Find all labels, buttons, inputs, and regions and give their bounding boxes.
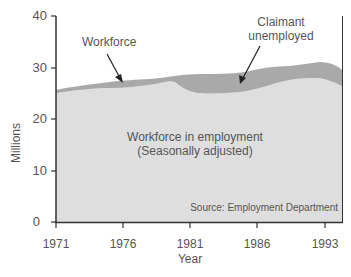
x-tick-label: 1986 — [244, 237, 271, 251]
workforce-arrow — [107, 54, 120, 78]
y-tick-label: 10 — [33, 163, 47, 178]
y-tick-label: 20 — [33, 111, 47, 126]
claimant-label-line1: Claimant — [257, 15, 305, 29]
employment-label-line2: (Seasonally adjusted) — [137, 144, 252, 158]
y-tick-label: 0 — [33, 214, 40, 229]
y-tick-label: 40 — [33, 8, 47, 23]
y-axis-title: Millions — [9, 123, 23, 163]
x-tick-label: 1981 — [177, 237, 204, 251]
x-tick-label: 1971 — [43, 237, 70, 251]
x-tick-label: 1976 — [110, 237, 137, 251]
source-note: Source: Employment Department — [190, 202, 338, 213]
y-tick-label: 30 — [33, 60, 47, 75]
workforce-label: Workforce — [82, 35, 137, 49]
x-axis-title: Year — [178, 252, 202, 266]
chart-canvas: 40 30 20 10 0 1971 1976 1981 1986 1993 Y… — [0, 0, 351, 277]
employment-label-line1: Workforce in employment — [127, 130, 263, 144]
claimant-label-line2: unemployed — [248, 29, 313, 43]
x-tick-label: 1993 — [312, 237, 339, 251]
